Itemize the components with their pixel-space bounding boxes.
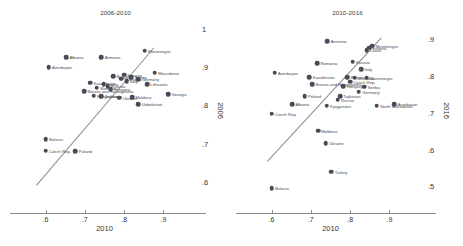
- data-point: [111, 74, 116, 79]
- data-point: [43, 148, 48, 153]
- point-label: Albania: [295, 102, 309, 107]
- plot-area-right: ArmeniaMontenegroEstoniaLatviaKosovoRoma…: [248, 22, 413, 202]
- point-label: Italy: [130, 78, 138, 83]
- x-tick: [46, 210, 47, 213]
- y-tick-label: .9: [202, 63, 208, 72]
- x-tick-label: .7: [82, 216, 88, 223]
- data-point: [302, 94, 307, 99]
- x-tick-label: .6: [269, 216, 275, 223]
- point-label: Kosovo: [356, 59, 370, 64]
- y-axis-title: 2016: [442, 102, 451, 119]
- data-point: [119, 76, 124, 81]
- x-tick: [311, 210, 312, 213]
- y-tick-label: .7: [428, 109, 434, 118]
- point-label: Czech Rep.: [275, 111, 297, 116]
- point-label: Uzbekistan: [142, 101, 163, 106]
- point-label: Kazakhstan: [313, 75, 335, 80]
- data-point: [269, 186, 274, 191]
- data-point: [142, 48, 147, 53]
- point-label: Ukraine: [123, 95, 137, 100]
- data-point: [307, 75, 312, 80]
- panel-title: 2010-2016: [232, 9, 463, 16]
- point-label: Belarus: [49, 137, 63, 142]
- y-axis-title: 2006: [216, 102, 225, 119]
- y-tick-label: 1: [202, 25, 206, 34]
- x-tick-label: .8: [121, 216, 127, 223]
- point-label: Germany: [362, 89, 379, 94]
- point-label: Azerbaijan: [52, 65, 72, 70]
- data-point: [315, 61, 320, 66]
- x-tick-label: .8: [347, 216, 353, 223]
- x-tick: [124, 210, 125, 213]
- y-tick-label: .5: [428, 182, 434, 191]
- point-label: Russia: [341, 97, 354, 102]
- point-label: Belarus: [275, 186, 289, 191]
- x-axis-line: [236, 213, 436, 214]
- x-axis-line: [10, 213, 206, 214]
- data-point: [325, 39, 330, 44]
- point-label: Czech Rep.: [49, 148, 71, 153]
- y-tick-label: .9: [428, 35, 434, 44]
- data-point: [310, 82, 315, 87]
- data-point: [341, 84, 346, 89]
- y-tick-label: .7: [202, 140, 208, 149]
- data-point: [362, 84, 367, 89]
- data-point: [136, 102, 141, 107]
- data-point: [290, 102, 295, 107]
- data-point: [145, 82, 150, 87]
- plot-area-left: MontenegroAlbaniaArmeniaAzerbaijanMacedo…: [22, 22, 187, 202]
- data-point: [88, 80, 93, 85]
- data-point: [269, 112, 274, 117]
- point-label: Latvia: [370, 47, 381, 52]
- point-label: Kyrgyzstan: [330, 103, 351, 108]
- data-point: [359, 67, 364, 72]
- point-label: Poland: [308, 94, 321, 99]
- data-point: [91, 93, 96, 98]
- x-tick: [272, 210, 273, 213]
- point-label: Ukraine: [329, 141, 343, 146]
- x-tick: [350, 210, 351, 213]
- point-label: Romania: [321, 61, 338, 66]
- point-label: Moldova: [135, 95, 151, 100]
- point-label: Armenia: [105, 55, 121, 60]
- point-label: Montenegro: [148, 48, 170, 53]
- point-label: Azerbaijan: [278, 70, 298, 75]
- data-point: [350, 59, 355, 64]
- data-point: [324, 103, 329, 108]
- data-point: [99, 94, 104, 99]
- data-point: [124, 79, 129, 84]
- y-tick-label: .8: [428, 72, 434, 81]
- x-tick-label: .9: [161, 216, 167, 223]
- data-point: [46, 65, 51, 70]
- y-tick-label: .6: [428, 146, 434, 155]
- data-point: [392, 102, 397, 107]
- data-point: [117, 96, 122, 101]
- data-point: [73, 149, 78, 154]
- data-point: [364, 48, 369, 53]
- x-tick: [85, 210, 86, 213]
- data-point: [375, 103, 380, 108]
- point-label: Italy: [365, 67, 373, 72]
- panel-2010-2016: 2010-2016 ArmeniaMontenegroEstoniaLatvia…: [232, 0, 463, 246]
- y-tick-label: .8: [202, 101, 208, 110]
- point-label: Turkey: [335, 169, 348, 174]
- data-point: [316, 128, 321, 133]
- data-point: [272, 70, 277, 75]
- data-point: [82, 89, 87, 94]
- point-label: Macedonia: [158, 70, 179, 75]
- data-point: [99, 55, 104, 60]
- scatter-plot-figure: 2006-2010 MontenegroAlbaniaArmeniaAzerba…: [0, 0, 463, 246]
- panel-title: 2006-2010: [0, 9, 231, 16]
- point-label: Azerbaijan: [398, 102, 418, 107]
- point-label: Armenia: [331, 39, 347, 44]
- data-point: [329, 170, 334, 175]
- x-tick-label: .9: [387, 216, 393, 223]
- point-label: Georgia: [172, 92, 187, 97]
- point-label: Hungary: [346, 83, 362, 88]
- x-axis-title: 2010: [96, 224, 113, 233]
- point-label: Albania: [69, 55, 83, 60]
- data-point: [152, 70, 157, 75]
- point-label: Moldova: [321, 128, 337, 133]
- y-tick-label: .6: [202, 178, 208, 187]
- x-tick-label: .7: [308, 216, 314, 223]
